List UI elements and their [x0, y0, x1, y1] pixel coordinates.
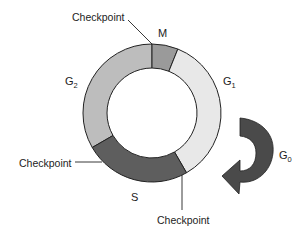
cell-cycle-diagram: Checkpoint Checkpoint Checkpoint M G1 S …	[0, 0, 300, 233]
checkpoint-label-bottom: Checkpoint	[157, 214, 210, 226]
checkpoint-label-top: Checkpoint	[72, 11, 125, 23]
phase-label-g2: G2	[65, 75, 78, 90]
phase-label-g0: G0	[279, 149, 292, 164]
g0-arrow-icon	[222, 118, 273, 194]
segment-g2	[83, 44, 152, 148]
phase-label-s: S	[131, 191, 138, 203]
phase-label-m: M	[158, 27, 167, 39]
phase-label-g1: G1	[223, 75, 236, 90]
checkpoint-line-top	[128, 20, 152, 44]
checkpoint-label-left: Checkpoint	[19, 157, 72, 169]
segment-g1	[169, 49, 221, 173]
segment-s	[92, 136, 186, 183]
